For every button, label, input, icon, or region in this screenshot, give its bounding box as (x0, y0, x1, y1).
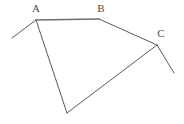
segment-a-to-b (36, 19, 99, 20)
vertex-label-a: A (32, 3, 40, 14)
segment-bottom-to-c (67, 45, 157, 113)
segment-a-to-bottom (36, 20, 67, 113)
segment-b-to-c (99, 19, 157, 45)
segment-c-to-tail-right (157, 45, 174, 73)
vertex-label-c: C (157, 28, 164, 39)
figure-line-drawing (0, 0, 184, 124)
geometry-figure-canvas: A B C (0, 0, 184, 124)
vertex-label-b: B (97, 3, 104, 14)
segment-tail-left-to-a (12, 20, 36, 38)
